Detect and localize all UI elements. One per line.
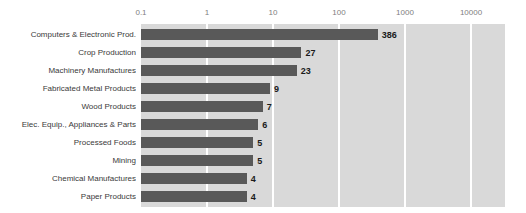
bar — [141, 101, 263, 112]
bar-row: Chemical Manufactures4 — [0, 170, 526, 188]
bar-value-label: 5 — [257, 134, 262, 152]
bar-row: Wood Products7 — [0, 98, 526, 116]
bar — [141, 83, 270, 94]
chart-title-clipped — [0, 0, 526, 2]
bar-value-label: 27 — [305, 44, 315, 62]
category-label: Chemical Manufactures — [0, 170, 136, 188]
category-label: Processed Foods — [0, 134, 136, 152]
category-label: Crop Production — [0, 44, 136, 62]
bar — [141, 47, 301, 58]
bar-value-label: 7 — [267, 98, 272, 116]
bar-rows: Computers & Electronic Prod.386Crop Prod… — [0, 24, 526, 207]
category-label: Elec. Equip., Appliances & Parts — [0, 116, 136, 134]
bar — [141, 191, 247, 202]
bar-row: Paper Products4 — [0, 188, 526, 206]
category-label: Wood Products — [0, 98, 136, 116]
bar-chart: 0.1110100100010000 Computers & Electroni… — [0, 0, 526, 213]
bar-value-label: 5 — [257, 152, 262, 170]
bar — [141, 119, 258, 130]
x-tick-label: 1000 — [396, 6, 414, 19]
bar-value-label: 386 — [382, 26, 397, 44]
bar — [141, 29, 378, 40]
x-tick-label: 100 — [332, 6, 345, 19]
x-axis-tick-labels: 0.1110100100010000 — [0, 6, 526, 19]
bar-row: Fabricated Metal Products9 — [0, 80, 526, 98]
category-label: Machinery Manufactures — [0, 62, 136, 80]
bar — [141, 65, 297, 76]
bar-value-label: 6 — [262, 116, 267, 134]
bar-row: Computers & Electronic Prod.386 — [0, 26, 526, 44]
category-label: Fabricated Metal Products — [0, 80, 136, 98]
bar-row: Machinery Manufactures23 — [0, 62, 526, 80]
bar-row: Crop Production27 — [0, 44, 526, 62]
category-label: Paper Products — [0, 188, 136, 206]
bar — [141, 137, 253, 148]
x-tick-label: 10 — [269, 6, 278, 19]
bar — [141, 173, 247, 184]
bar-value-label: 4 — [251, 170, 256, 188]
bar-value-label: 4 — [251, 188, 256, 206]
bar-value-label: 9 — [274, 80, 279, 98]
bar-row: Mining5 — [0, 152, 526, 170]
category-label: Mining — [0, 152, 136, 170]
bar-row: Elec. Equip., Appliances & Parts6 — [0, 116, 526, 134]
x-tick-label: 1 — [205, 6, 209, 19]
bar — [141, 155, 253, 166]
bar-value-label: 23 — [301, 62, 311, 80]
x-tick-label: 0.1 — [135, 6, 146, 19]
category-label: Computers & Electronic Prod. — [0, 26, 136, 44]
x-tick-label: 10000 — [460, 6, 482, 19]
bar-row: Processed Foods5 — [0, 134, 526, 152]
